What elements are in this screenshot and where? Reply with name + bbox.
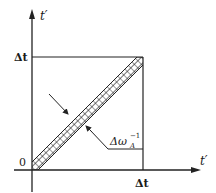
x-tick-label: Δt xyxy=(135,177,150,190)
svg-text:Δω: Δω xyxy=(109,135,127,148)
svg-text:A: A xyxy=(129,142,135,150)
diagram-canvas: t′ t′ 0 Δt Δt Δω A −1 xyxy=(0,0,216,193)
y-axis-arrow-icon xyxy=(29,9,35,19)
hatched-band xyxy=(24,57,151,170)
right-pointer-arrow xyxy=(86,126,92,132)
origin-label: 0 xyxy=(19,156,26,169)
y-tick-label: Δt xyxy=(14,51,29,64)
left-pointer-arrow xyxy=(49,94,68,114)
y-axis-label: t′ xyxy=(40,9,48,23)
x-axis-label: t′ xyxy=(200,154,208,168)
svg-text:−1: −1 xyxy=(130,132,140,140)
band-width-label: Δω A −1 xyxy=(109,132,140,150)
